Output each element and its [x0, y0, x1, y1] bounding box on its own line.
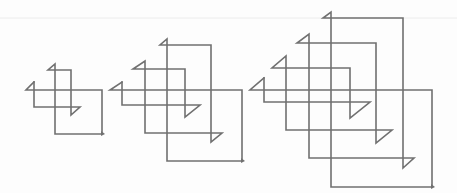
diagram-canvas — [0, 0, 457, 193]
figures-group — [26, 12, 435, 189]
spiral-outer-path — [250, 78, 432, 187]
spiral-inner-path — [264, 12, 432, 187]
spiral-outer-path — [110, 82, 242, 161]
arrowhead-icon — [101, 131, 105, 136]
arrowhead-icon — [241, 158, 245, 163]
spiral-inner-path — [34, 64, 102, 134]
spiral-order-2 — [26, 64, 105, 136]
spiral-order-3 — [110, 39, 245, 163]
arrowhead-icon — [431, 184, 435, 189]
spiral-outer-path — [26, 82, 102, 134]
spiral-inner-path — [122, 39, 242, 161]
spiral-diagram — [0, 0, 457, 193]
spiral-order-4 — [250, 12, 435, 189]
